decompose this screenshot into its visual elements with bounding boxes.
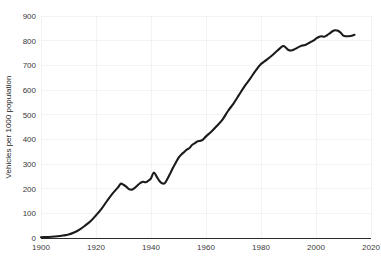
x-tick-label: 2000 — [307, 243, 325, 252]
y-tick-label: 300 — [23, 160, 37, 169]
y-tick-label: 0 — [32, 234, 37, 243]
chart-background — [0, 0, 381, 258]
y-axis-title: Vehicles per 1000 population — [4, 76, 13, 179]
y-tick-label: 700 — [23, 61, 37, 70]
x-tick-label: 1900 — [32, 243, 50, 252]
y-tick-label: 500 — [23, 111, 37, 120]
y-tick-label: 400 — [23, 135, 37, 144]
y-tick-label: 600 — [23, 86, 37, 95]
line-chart: 0100200300400500600700800900 19001920194… — [0, 0, 381, 258]
x-tick-label: 1980 — [252, 243, 270, 252]
x-tick-label: 1940 — [142, 243, 160, 252]
chart-container: 0100200300400500600700800900 19001920194… — [0, 0, 381, 258]
x-tick-label: 1960 — [197, 243, 215, 252]
x-tick-label: 2020 — [362, 243, 380, 252]
y-tick-label: 100 — [23, 209, 37, 218]
y-tick-label: 200 — [23, 185, 37, 194]
y-tick-label: 900 — [23, 12, 37, 21]
y-tick-label: 800 — [23, 37, 37, 46]
x-tick-label: 1920 — [87, 243, 105, 252]
